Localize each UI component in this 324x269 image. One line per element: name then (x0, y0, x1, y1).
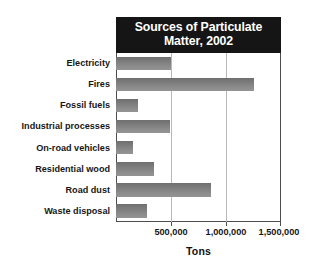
tick-mark-500000 (171, 222, 172, 226)
x-axis-title: Tons (116, 245, 281, 257)
category-label-waste-disposal: Waste disposal (44, 201, 110, 222)
bar-row (116, 95, 281, 116)
category-label-residential-wood: Residential wood (35, 159, 110, 180)
particulate-matter-bar-chart: Sources of Particulate Matter, 2002 (0, 0, 324, 269)
category-label-fossil-fuels: Fossil fuels (60, 95, 110, 116)
bar-on-road-vehicles (116, 141, 133, 154)
tick-mark-1500000 (280, 222, 281, 226)
tick-label-1500000: 1,500,000 (259, 227, 300, 237)
category-label-road-dust: Road dust (66, 180, 110, 201)
bar-row (116, 53, 281, 74)
category-axis-labels: Electricity Fires Fossil fuels Industria… (0, 53, 113, 222)
category-label-fires: Fires (88, 74, 110, 95)
bars-layer (116, 53, 281, 222)
bar-row (116, 180, 281, 201)
tick-label-1000000: 1,000,000 (206, 227, 247, 237)
bar-industrial-processes (116, 120, 170, 133)
chart-title: Sources of Particulate Matter, 2002 (135, 21, 263, 48)
bar-row (116, 74, 281, 95)
bar-row (116, 159, 281, 180)
bar-electricity (116, 57, 171, 70)
bar-row (116, 116, 281, 137)
bar-row (116, 201, 281, 222)
bar-residential-wood (116, 162, 154, 175)
bar-road-dust (116, 183, 211, 196)
bar-fires (116, 78, 254, 91)
tick-mark-1000000 (226, 222, 227, 226)
category-label-on-road-vehicles: On-road vehicles (36, 138, 110, 159)
category-label-industrial-processes: Industrial processes (22, 116, 110, 137)
bar-waste-disposal (116, 204, 147, 217)
bar-fossil-fuels (116, 99, 138, 112)
chart-title-banner: Sources of Particulate Matter, 2002 (116, 17, 281, 53)
category-label-electricity: Electricity (67, 53, 110, 74)
tick-label-500000: 500,000 (154, 227, 187, 237)
bar-row (116, 138, 281, 159)
